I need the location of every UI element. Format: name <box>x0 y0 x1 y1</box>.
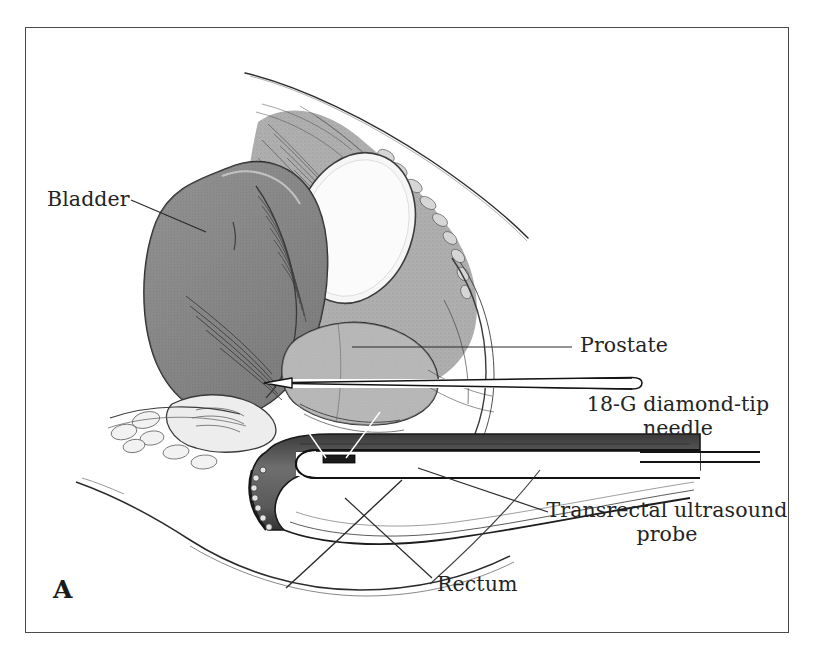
panel-letter: A <box>53 575 73 604</box>
label-needle-line2: needle <box>563 417 793 441</box>
label-rectum: Rectum <box>437 573 518 597</box>
label-needle-line1: 18-G diamond-tip <box>563 393 793 417</box>
label-prostate: Prostate <box>580 334 668 358</box>
label-needle: 18-G diamond-tip needle <box>563 393 793 441</box>
label-bladder: Bladder <box>47 188 130 212</box>
label-probe: Transrectal ultrasound probe <box>541 499 793 547</box>
figure-panel-a: Bladder Prostate 18-G diamond-tip needle… <box>0 0 814 658</box>
label-probe-line1: Transrectal ultrasound <box>541 499 793 523</box>
label-probe-line2: probe <box>541 523 793 547</box>
